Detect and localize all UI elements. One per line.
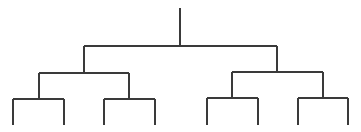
tree-diagram: [0, 0, 361, 132]
tree-diagram-svg: [0, 0, 361, 132]
